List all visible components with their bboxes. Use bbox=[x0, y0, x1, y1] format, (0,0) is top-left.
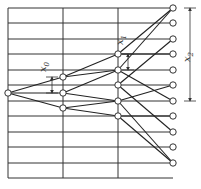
network-edge bbox=[118, 8, 173, 54]
network-node bbox=[170, 5, 176, 11]
network-edge bbox=[63, 108, 118, 116]
network-node bbox=[170, 82, 176, 88]
network-node bbox=[170, 51, 176, 57]
network-node bbox=[115, 113, 121, 119]
network-edge bbox=[118, 39, 173, 85]
network-node bbox=[170, 129, 176, 135]
network-node bbox=[115, 51, 121, 57]
network-edge bbox=[118, 85, 173, 101]
network-edge bbox=[118, 116, 173, 163]
label-x0: x0 bbox=[38, 62, 52, 72]
network-edge bbox=[63, 101, 118, 108]
label-x2: x2 bbox=[182, 52, 196, 62]
network-node bbox=[170, 113, 176, 119]
network-node bbox=[60, 90, 66, 96]
network-edge bbox=[118, 85, 173, 132]
network-node bbox=[170, 98, 176, 104]
network-node bbox=[170, 36, 176, 42]
network-node bbox=[115, 67, 121, 73]
network-node bbox=[5, 90, 11, 96]
network-edge bbox=[63, 93, 118, 101]
network-node bbox=[170, 144, 176, 150]
network-node bbox=[60, 74, 66, 80]
network-node bbox=[170, 67, 176, 73]
network-node bbox=[115, 98, 121, 104]
branching-network-diagram bbox=[0, 0, 201, 189]
label-x1: x1 bbox=[115, 35, 129, 45]
network-node bbox=[115, 82, 121, 88]
network-node bbox=[170, 20, 176, 26]
network-node bbox=[60, 105, 66, 111]
network-node bbox=[170, 160, 176, 166]
